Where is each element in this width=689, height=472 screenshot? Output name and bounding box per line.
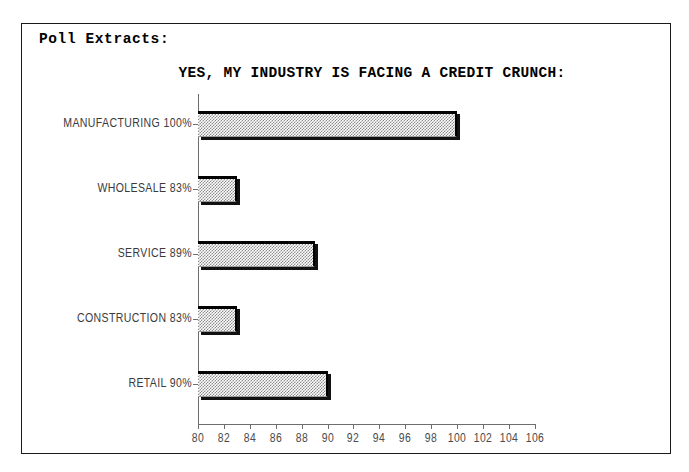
x-axis-tick: [328, 424, 329, 429]
x-axis-tick: [224, 424, 225, 429]
chart-frame: Poll Extracts: YES, MY INDUSTRY IS FACIN…: [21, 23, 671, 454]
x-axis-tick: [250, 424, 251, 429]
x-axis-tick: [276, 424, 277, 429]
x-axis-tick: [431, 424, 432, 429]
x-axis-tick: [302, 424, 303, 429]
bar-fill: [198, 241, 315, 267]
bar-fill: [198, 306, 237, 332]
x-axis-tick: [535, 424, 536, 429]
category-label-retail: RETAIL 90%: [59, 375, 192, 390]
category-label-wholesale: WHOLESALE 83%: [59, 180, 192, 195]
plot-area: MANUFACTURING 100%WHOLESALE 83%SERVICE 8…: [22, 24, 672, 455]
bar-wholesale: [198, 176, 237, 202]
x-axis-tick: [405, 424, 406, 429]
x-axis-tick-label: 106: [519, 430, 551, 445]
bar-construction: [198, 306, 237, 332]
category-label-manufacturing: MANUFACTURING 100%: [59, 115, 192, 130]
x-axis-tick: [198, 424, 199, 429]
bar-service: [198, 241, 315, 267]
category-label-service: SERVICE 89%: [59, 245, 192, 260]
x-axis-tick: [379, 424, 380, 429]
bar-retail: [198, 371, 328, 397]
x-axis-line: [198, 424, 535, 425]
bar-fill: [198, 176, 237, 202]
x-axis-tick: [483, 424, 484, 429]
x-axis-tick: [457, 424, 458, 429]
x-axis-tick: [509, 424, 510, 429]
bar-fill: [198, 111, 457, 137]
bar-fill: [198, 371, 328, 397]
x-axis-tick: [353, 424, 354, 429]
category-label-construction: CONSTRUCTION 83%: [59, 310, 192, 325]
bar-manufacturing: [198, 111, 457, 137]
